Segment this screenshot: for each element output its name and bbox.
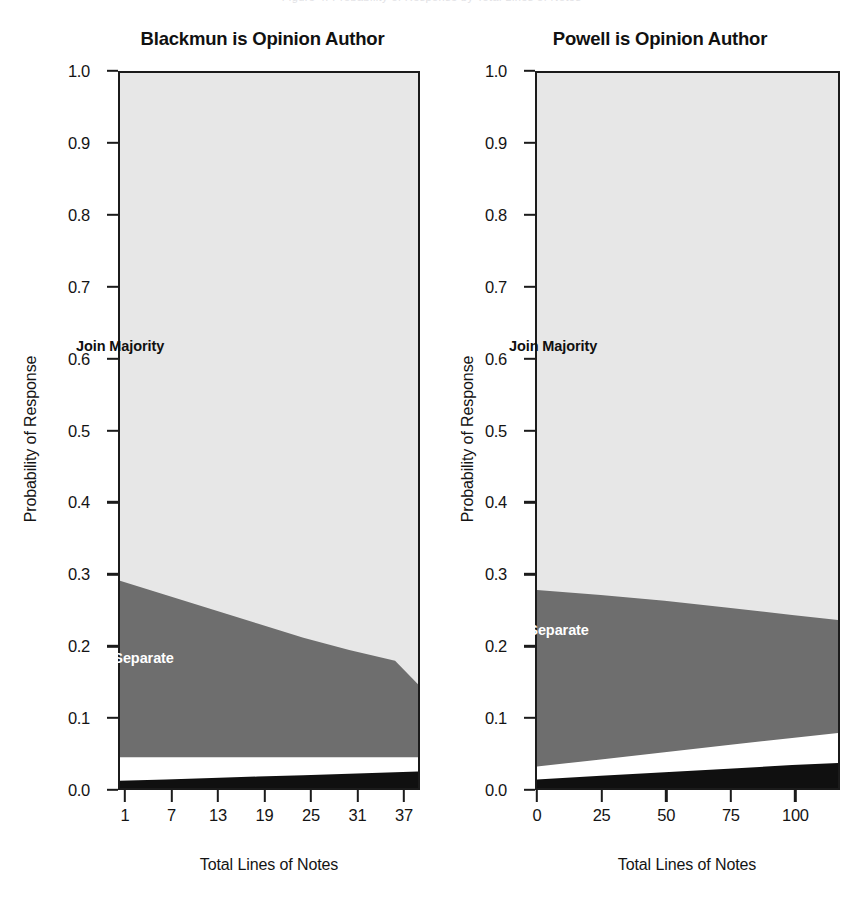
y-tick-label: 0.3: [463, 565, 507, 584]
x-tick-mark: [600, 790, 602, 802]
y-tick-label: 0.8: [463, 205, 507, 224]
y-tick-mark: [524, 717, 535, 719]
x-tick-mark: [263, 790, 265, 802]
chart-title-blackmun: Blackmun is Opinion Author: [0, 28, 481, 50]
y-tick-mark: [107, 142, 118, 144]
chart-panel-powell: Powell is Opinion Author Probability of …: [437, 0, 863, 908]
band-label-join-separate: Join Separate: [495, 622, 589, 638]
x-tick-label: 7: [167, 806, 176, 825]
y-tick-label: 0.6: [463, 349, 507, 368]
y-tick-label: 0.0: [46, 781, 90, 800]
y-tick-label: 0.2: [463, 637, 507, 656]
y-tick-mark: [107, 573, 118, 575]
x-tick-mark: [730, 790, 732, 802]
y-tick-label: 0.1: [463, 709, 507, 728]
y-tick-mark: [107, 717, 118, 719]
x-tick-mark: [124, 790, 126, 802]
y-tick-mark: [524, 501, 535, 503]
stacked-area-svg-blackmun: [120, 73, 418, 788]
x-tick-mark: [310, 790, 312, 802]
y-tick-label: 1.0: [46, 62, 90, 81]
x-tick-label: 37: [395, 806, 413, 825]
x-tick-mark: [794, 790, 796, 802]
y-tick-label: 0.9: [46, 133, 90, 152]
stacked-area-svg-powell: [537, 73, 838, 788]
x-tick-label: 25: [593, 806, 611, 825]
band-label-join-separate: Join Separate: [80, 650, 174, 666]
x-tick-mark: [356, 790, 358, 802]
y-tick-label: 0.5: [463, 421, 507, 440]
x-tick-label: 75: [722, 806, 740, 825]
y-tick-mark: [107, 285, 118, 287]
x-tick-label: 50: [657, 806, 675, 825]
x-tick-label: 25: [302, 806, 320, 825]
y-tick-mark: [107, 70, 118, 72]
figure-root: Figure 4. Probability of Response by Tot…: [0, 0, 863, 908]
y-tick-mark: [107, 429, 118, 431]
y-tick-label: 0.5: [46, 421, 90, 440]
y-tick-mark: [524, 285, 535, 287]
x-tick-mark: [170, 790, 172, 802]
y-tick-label: 0.4: [46, 493, 90, 512]
x-tick-label: 100: [782, 806, 809, 825]
x-axis-title: Total Lines of Notes: [200, 856, 339, 874]
y-tick-mark: [524, 645, 535, 647]
y-tick-mark: [524, 573, 535, 575]
x-tick-label: 1: [121, 806, 130, 825]
y-tick-mark: [107, 501, 118, 503]
x-tick-mark: [665, 790, 667, 802]
y-tick-mark: [524, 214, 535, 216]
y-tick-mark: [524, 429, 535, 431]
y-tick-label: 0.4: [463, 493, 507, 512]
x-tick-mark: [217, 790, 219, 802]
y-tick-mark: [107, 357, 118, 359]
y-axis-title: Probability of Response: [22, 319, 40, 559]
y-tick-label: 0.7: [463, 277, 507, 296]
x-tick-label: 31: [349, 806, 367, 825]
y-tick-label: 0.0: [463, 781, 507, 800]
x-tick-label: 13: [209, 806, 227, 825]
y-tick-mark: [524, 789, 535, 791]
plot-area-blackmun: [118, 71, 420, 790]
x-tick-label: 0: [533, 806, 542, 825]
y-tick-label: 0.8: [46, 205, 90, 224]
x-axis-title: Total Lines of Notes: [618, 856, 757, 874]
chart-panel-blackmun: Blackmun is Opinion Author Probability o…: [0, 0, 437, 908]
y-tick-mark: [107, 789, 118, 791]
y-tick-label: 1.0: [463, 62, 507, 81]
plot-area-powell: [535, 71, 840, 790]
x-tick-label: 19: [256, 806, 274, 825]
x-tick-mark: [536, 790, 538, 802]
y-tick-label: 0.3: [46, 565, 90, 584]
y-tick-label: 0.9: [463, 133, 507, 152]
y-tick-mark: [524, 70, 535, 72]
y-tick-mark: [524, 142, 535, 144]
chart-title-powell: Powell is Opinion Author: [437, 28, 863, 50]
band-label-join-majority: Join Majority: [76, 338, 164, 354]
y-tick-mark: [107, 214, 118, 216]
y-tick-label: 0.7: [46, 277, 90, 296]
x-tick-mark: [403, 790, 405, 802]
band-label-join-majority: Join Majority: [509, 338, 597, 354]
y-tick-mark: [107, 645, 118, 647]
y-tick-mark: [524, 357, 535, 359]
y-tick-label: 0.1: [46, 709, 90, 728]
